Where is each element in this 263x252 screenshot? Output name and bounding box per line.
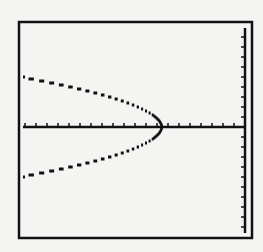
upper-branch-segment [141, 108, 143, 111]
x-axis [23, 123, 245, 127]
lower-branch-segment [77, 164, 81, 167]
upper-branch-segment [145, 110, 147, 113]
upper-branch-segment [127, 102, 130, 105]
lower-branch-segment [68, 166, 73, 169]
upper-branch-segment [77, 88, 81, 91]
upper-branch-segment [39, 80, 44, 83]
lower-branch-segment [137, 146, 139, 149]
lower-branch-segment [149, 140, 151, 143]
upper-branch-segment [101, 94, 105, 97]
upper-branch-segment [68, 86, 73, 89]
lower-branch-segment [101, 158, 105, 161]
lower-branch-segment [49, 170, 54, 173]
lower-branch-segment [85, 162, 89, 165]
y-axis [241, 28, 245, 233]
upper-branch-segment [121, 100, 124, 103]
upper-branch-segment [93, 92, 97, 95]
lower-branch-segment [29, 174, 34, 177]
plot-frame [19, 22, 252, 238]
graph-window [0, 0, 263, 252]
lower-branch-segment [59, 168, 64, 171]
lower-branch-segment [23, 176, 25, 179]
lower-branch-segment [121, 152, 124, 155]
upper-branch-segment [149, 112, 151, 115]
upper-branch-segment [115, 98, 118, 101]
upper-branch-segment [137, 106, 139, 109]
lower-branch-segment [145, 142, 147, 145]
lower-branch-segment [161, 126, 163, 129]
upper-branch-segment [59, 84, 64, 87]
lower-branch-segment [132, 148, 135, 151]
lower-branch-segment [93, 160, 97, 163]
lower-branch-segment [127, 150, 130, 153]
lower-branch-segment [39, 172, 44, 175]
upper-branch-segment [85, 90, 89, 93]
upper-branch-segment [49, 82, 54, 85]
upper-branch-segment [29, 78, 34, 81]
upper-branch-segment [23, 76, 25, 79]
lower-branch-segment [141, 144, 143, 147]
lower-branch-segment [108, 156, 111, 159]
lower-branch-segment [115, 154, 118, 157]
upper-branch-segment [108, 96, 111, 99]
upper-branch-segment [132, 104, 135, 107]
